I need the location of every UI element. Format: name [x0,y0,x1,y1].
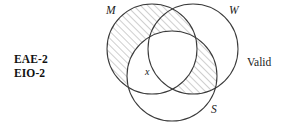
syllogism-form-line-1: EAE-2 [14,53,92,67]
syllogism-form-labels: EAE-2 EIO-2 [14,53,92,80]
circle-label-s: S [211,103,217,115]
circle-label-w: W [229,4,239,16]
circle-label-m: M [106,4,116,16]
existential-x-marker: x [145,66,149,77]
validity-label: Valid [247,56,271,69]
venn-diagram-figure: EAE-2 EIO-2 Valid M W S x [0,0,289,127]
syllogism-form-line-2: EIO-2 [14,67,92,81]
